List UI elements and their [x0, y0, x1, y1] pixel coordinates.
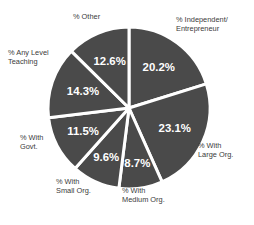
slice-value-independent-entrepreneur: 20.2%: [143, 61, 175, 73]
slice-value-medium-org: 8.7%: [124, 157, 150, 169]
category-label-with-medium-org: % With Medium Org.: [122, 186, 165, 205]
slice-value-any-level-teaching: 14.3%: [67, 85, 99, 97]
category-label-with-small-org: % With Small Org.: [56, 177, 91, 196]
slice-value-govt: 11.5%: [67, 125, 99, 137]
pie-chart-figure: 20.2%23.1%8.7%9.6%11.5%14.3%12.6% % Othe…: [0, 0, 254, 225]
slice-value-small-org: 9.6%: [93, 151, 119, 163]
category-label-other: % Other: [73, 12, 100, 21]
slice-value-other: 12.6%: [93, 55, 125, 67]
category-label-any-level-teaching: % Any Level Teaching: [8, 48, 49, 67]
category-label-independent-entrepreneur: % Independent/ Entrepreneur: [176, 15, 228, 34]
category-label-with-large-org: % With Large Org.: [198, 141, 233, 160]
category-label-with-govt: % With Govt.: [20, 133, 43, 152]
slice-value-large-org: 23.1%: [159, 122, 191, 134]
